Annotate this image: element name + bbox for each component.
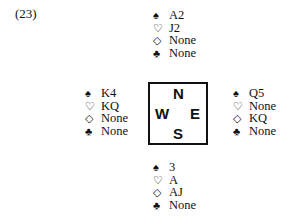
club-icon: ♣: [233, 125, 249, 138]
spade-icon: ♠: [153, 9, 169, 22]
club-icon: ♣: [153, 199, 169, 212]
east-diamonds-row: ◇KQ: [233, 112, 276, 125]
north-hand: ♠A2 ♡J2 ◇None ♣None: [153, 9, 196, 59]
spade-icon: ♠: [153, 161, 169, 174]
north-spades: A2: [169, 9, 184, 22]
south-clubs: None: [169, 199, 196, 212]
spade-icon: ♠: [233, 87, 249, 100]
heart-icon: ♡: [233, 100, 249, 113]
spade-icon: ♠: [85, 87, 101, 100]
diamond-icon: ◇: [153, 186, 169, 199]
north-clubs-row: ♣None: [153, 47, 196, 60]
diamond-icon: ◇: [233, 112, 249, 125]
east-diamonds: KQ: [249, 112, 267, 125]
south-clubs-row: ♣None: [153, 199, 196, 212]
west-diamonds-row: ◇None: [85, 112, 128, 125]
south-hand: ♠3 ♡A ◇AJ ♣None: [153, 161, 196, 211]
compass-west: W: [155, 106, 169, 121]
east-hand: ♠Q5 ♡None ◇KQ ♣None: [233, 87, 276, 137]
south-spades: 3: [169, 161, 175, 174]
problem-number: (23): [15, 6, 37, 22]
club-icon: ♣: [85, 125, 101, 138]
west-hand: ♠K4 ♡KQ ◇None ♣None: [85, 87, 128, 137]
diamond-icon: ◇: [85, 112, 101, 125]
compass-east: E: [190, 106, 200, 121]
south-spades-row: ♠3: [153, 161, 196, 174]
north-diamonds-row: ◇None: [153, 34, 196, 47]
east-spades-row: ♠Q5: [233, 87, 276, 100]
diamond-icon: ◇: [153, 34, 169, 47]
club-icon: ♣: [153, 47, 169, 60]
south-diamonds-row: ◇AJ: [153, 186, 196, 199]
east-clubs-row: ♣None: [233, 125, 276, 138]
north-clubs: None: [169, 47, 196, 60]
compass-box: N W E S: [148, 82, 208, 145]
west-spades-row: ♠K4: [85, 87, 128, 100]
west-clubs-row: ♣None: [85, 125, 128, 138]
east-clubs: None: [249, 125, 276, 138]
west-clubs: None: [101, 125, 128, 138]
north-spades-row: ♠A2: [153, 9, 196, 22]
compass-south: S: [173, 126, 183, 141]
west-diamonds: None: [101, 112, 128, 125]
south-diamonds: AJ: [169, 186, 183, 199]
west-spades: K4: [101, 87, 116, 100]
north-diamonds: None: [169, 34, 196, 47]
compass-north: N: [173, 86, 184, 101]
heart-icon: ♡: [85, 100, 101, 113]
heart-icon: ♡: [153, 174, 169, 187]
east-spades: Q5: [249, 87, 264, 100]
heart-icon: ♡: [153, 22, 169, 35]
